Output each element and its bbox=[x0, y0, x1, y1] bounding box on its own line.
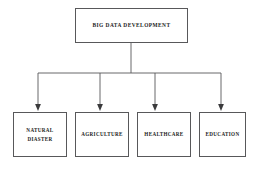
node-root[interactable]: BIG DATA DEVELOPMENT bbox=[75, 8, 188, 43]
node-natural-diaster[interactable]: NATURAL DIASTER bbox=[13, 112, 67, 157]
node-education[interactable]: EDUCATION bbox=[199, 112, 246, 157]
arrowhead-icon-0 bbox=[35, 104, 41, 111]
node-education-label: EDUCATION bbox=[204, 130, 242, 138]
node-healthcare-label: HEALTHCARE bbox=[142, 130, 185, 138]
node-root-label: BIG DATA DEVELOPMENT bbox=[91, 21, 173, 30]
node-natural-diaster-label: NATURAL DIASTER bbox=[24, 126, 55, 143]
node-healthcare[interactable]: HEALTHCARE bbox=[137, 112, 191, 157]
arrowhead-icon-1 bbox=[97, 104, 103, 111]
diagram-canvas: BIG DATA DEVELOPMENT NATURAL DIASTER AGR… bbox=[0, 0, 259, 169]
arrowhead-icon-3 bbox=[218, 104, 224, 111]
node-agriculture[interactable]: AGRICULTURE bbox=[75, 112, 129, 157]
node-agriculture-label: AGRICULTURE bbox=[79, 130, 125, 138]
arrowhead-icon-2 bbox=[152, 104, 158, 111]
